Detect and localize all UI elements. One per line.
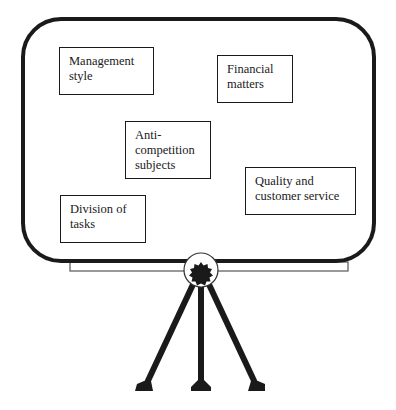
note-text-line: customer service [255, 189, 347, 204]
tripod-legs-icon [146, 278, 256, 385]
note-text-line: competition [135, 143, 202, 158]
note-text-line: matters [227, 77, 284, 92]
flipchart-diagram: Management style Financial matters Anti-… [0, 0, 396, 410]
note-text-line: subjects [135, 158, 202, 173]
note-text-line: Quality and [255, 174, 347, 189]
note-text-line: Management [69, 54, 145, 69]
note-quality-and-customer-service: Quality and customer service [245, 167, 356, 215]
note-text-line: tasks [70, 217, 137, 232]
note-text-line: Anti- [135, 128, 202, 143]
note-financial-matters: Financial matters [217, 55, 293, 103]
note-division-of-tasks: Division of tasks [60, 195, 146, 243]
note-text-line: Division of [70, 202, 137, 217]
tripod-feet-icon [135, 380, 265, 391]
note-text-line: Financial [227, 62, 284, 77]
note-anti-competition-subjects: Anti- competition subjects [125, 121, 211, 179]
note-text-line: style [69, 69, 145, 84]
note-management-style: Management style [59, 47, 154, 95]
